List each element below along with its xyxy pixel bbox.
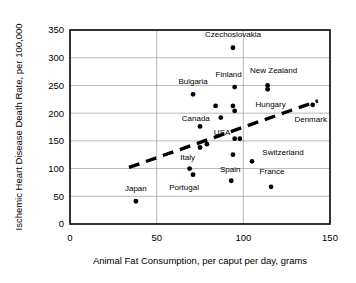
data-point — [232, 109, 237, 114]
y-tick-label: 150 — [48, 135, 64, 146]
data-point-label: Canada — [182, 114, 211, 123]
data-point-label: Portugal — [169, 183, 199, 192]
data-point-hungary — [265, 87, 270, 92]
y-tick-label: 300 — [48, 52, 64, 63]
data-point-label: Hungary — [255, 100, 285, 109]
data-point-japan — [133, 199, 138, 204]
data-point-denmark — [310, 102, 315, 107]
data-point-label: Finland — [216, 70, 242, 79]
data-point — [237, 136, 242, 141]
y-tick-label: 50 — [53, 191, 64, 202]
data-point-canada — [218, 115, 223, 120]
data-point — [198, 145, 203, 150]
data-point-italy — [187, 166, 192, 171]
data-point-label: Italy — [180, 153, 195, 162]
x-axis-title: Animal Fat Consumption, per caput per da… — [93, 255, 307, 266]
x-axis-tick-labels: 050100150 — [67, 232, 338, 243]
data-point-france — [269, 184, 274, 189]
y-tick-label: 350 — [48, 24, 64, 35]
chart-figure: 050100150200250300350 050100150 Czechosl… — [0, 0, 356, 283]
data-point — [231, 104, 236, 109]
data-point-label: New Zealand — [250, 66, 297, 75]
x-tick-label: 50 — [151, 232, 162, 243]
x-tick-label: 0 — [67, 232, 72, 243]
data-point-label: Switzerland — [262, 148, 303, 157]
data-point — [205, 142, 210, 147]
data-point — [231, 152, 236, 157]
data-point-portugal — [191, 172, 196, 177]
data-point-label: USA — [214, 128, 231, 137]
data-point — [232, 136, 237, 141]
y-tick-label: 0 — [59, 218, 64, 229]
y-tick-label: 250 — [48, 80, 64, 91]
data-point-usa — [198, 124, 203, 129]
data-point-spain — [229, 178, 234, 183]
data-point-czechoslovakia — [231, 45, 236, 50]
y-axis-title: Ischemic Heart Disease Death Rate, per 1… — [13, 24, 24, 231]
data-point-switzerland — [250, 159, 255, 164]
data-point-label: Czechoslovakia — [205, 30, 262, 39]
y-tick-label: 100 — [48, 163, 64, 174]
data-point-bulgaria — [191, 92, 196, 97]
y-tick-label: 200 — [48, 108, 64, 119]
data-point-label: Spain — [220, 165, 240, 174]
x-tick-label: 100 — [235, 232, 251, 243]
x-tick-label: 150 — [322, 232, 338, 243]
y-axis-tick-labels: 050100150200250300350 — [48, 24, 64, 229]
data-point-label: France — [260, 167, 285, 176]
data-point-label: Bulgaria — [178, 77, 208, 86]
data-point-label: Japan — [125, 184, 147, 193]
data-point-label: Denmark — [294, 115, 327, 124]
scatter-plot: 050100150200250300350 050100150 Czechosl… — [0, 0, 356, 283]
data-point — [213, 104, 218, 109]
data-point-finland — [232, 85, 237, 90]
